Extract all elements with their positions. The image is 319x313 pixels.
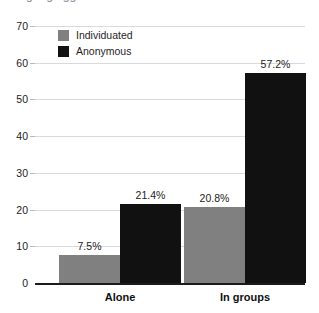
x-axis-category-label: Alone (59, 291, 181, 303)
y-axis-tick-label: 50 (2, 94, 28, 104)
bar-value-label: 20.8% (184, 193, 245, 204)
bar-alone-anonymous[interactable] (120, 204, 181, 283)
y-axis-tick-mark (30, 63, 35, 64)
y-axis-tick-label: 40 (2, 131, 28, 141)
y-axis-tick-label: 10 (2, 241, 28, 251)
bar-chart: gang aggression IndividuatedAnonymous 01… (0, 0, 319, 313)
legend-item-label: Individuated (76, 30, 133, 41)
legend-swatch-icon (58, 46, 69, 57)
y-axis-tick-mark (30, 99, 35, 100)
y-axis-tick-label: 0 (2, 278, 28, 288)
y-axis-tick-label: 60 (2, 58, 28, 68)
legend-item-individuated[interactable]: Individuated (58, 29, 133, 42)
x-axis-category-label: In groups (184, 291, 306, 303)
gridline-0 (35, 283, 305, 285)
legend-item-label: Anonymous (76, 46, 131, 57)
y-axis-tick-label: 70 (2, 21, 28, 31)
bar-alone-individuated[interactable] (59, 255, 120, 283)
y-axis-tick-label: 30 (2, 168, 28, 178)
chart-legend: IndividuatedAnonymous (58, 29, 133, 58)
legend-item-anonymous[interactable]: Anonymous (58, 45, 133, 58)
y-axis-tick-mark (30, 246, 35, 247)
y-axis-tick-mark (30, 210, 35, 211)
bar-value-label: 7.5% (59, 241, 120, 252)
y-axis-tick-mark (30, 173, 35, 174)
y-axis-tick-label: 20 (2, 205, 28, 215)
bar-value-label: 21.4% (120, 190, 181, 201)
bar-in-groups-individuated[interactable] (184, 207, 245, 283)
y-axis-tick-mark (30, 26, 35, 27)
legend-swatch-icon (58, 30, 69, 41)
chart-title-cutoff: gang aggression (26, 0, 246, 4)
bar-in-groups-anonymous[interactable] (245, 73, 306, 283)
gridline-70 (35, 26, 305, 27)
y-axis-tick-mark (30, 136, 35, 137)
bar-value-label: 57.2% (245, 59, 306, 70)
